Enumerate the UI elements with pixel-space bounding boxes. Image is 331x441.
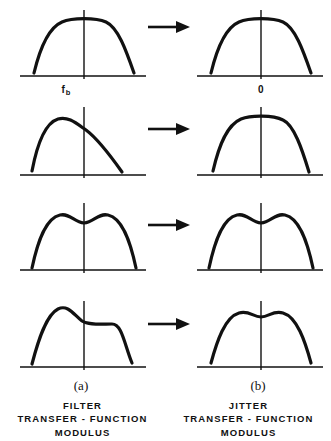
caption-filter-line2: TRANSFER - FUNCTION [0,412,165,425]
panel-row4-jitter [195,293,325,373]
axis-label-zero: 0 [239,84,283,95]
caption-jitter-line1: JITTER [166,399,331,412]
panel-row4-filter [18,293,148,373]
caption-filter: FILTER TRANSFER - FUNCTION MODULUS [0,399,165,439]
panel-row1-jitter [195,4,325,84]
caption-filter-line3: MODULUS [0,426,165,439]
right-arrow-icon [146,103,192,183]
right-arrow-icon [146,198,192,278]
panel-row3-filter [18,198,148,278]
panel-row2-filter [18,103,148,183]
column-label-b: (b) [198,378,318,394]
panel-row2-jitter [195,103,325,183]
axis-label-zero-symbol: 0 [258,84,264,95]
caption-jitter: JITTER TRANSFER - FUNCTION MODULUS [166,399,331,439]
caption-jitter-line3: MODULUS [166,426,331,439]
figure-container: fb 0 [0,0,331,441]
curve-filter-peak-shelf [32,308,132,364]
caption-filter-line1: FILTER [0,399,165,412]
axis-label-fb-subscript: b [65,88,70,97]
caption-jitter-line2: TRANSFER - FUNCTION [166,412,331,425]
panel-row3-jitter [195,198,325,278]
axis-label-fb: fb [44,84,88,97]
right-arrow-icon [146,4,192,84]
column-label-a: (a) [21,378,141,394]
right-arrow-icon [146,293,192,373]
curve-filter-skewed [32,118,122,172]
panel-row1-filter [18,4,148,84]
